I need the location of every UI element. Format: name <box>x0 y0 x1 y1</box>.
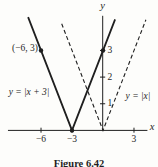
point-dot <box>70 128 74 132</box>
y-tick-label: 2 <box>108 72 113 83</box>
x-tick-label: 3 <box>124 134 144 145</box>
y-tick-label: 3 <box>108 45 113 56</box>
y-tick-label: 1 <box>108 98 113 109</box>
point-dot <box>39 48 43 52</box>
point-dot <box>101 48 105 52</box>
series-line-1 <box>62 20 146 131</box>
series-label-shifted-graph: y = |x + 3| <box>1 87 57 98</box>
series-line-0 <box>28 17 115 130</box>
figure-caption: Figure 6.42 <box>0 157 158 167</box>
figure-canvas: y x (−6, 3) y = |x + 3| y = |x| Figure 6… <box>0 0 158 167</box>
x-tick-label: −6 <box>31 134 51 145</box>
series-label-parent-graph: y = |x| <box>119 91 157 102</box>
y-axis-label: y <box>96 0 109 11</box>
x-axis-label: x <box>146 121 158 132</box>
x-tick-label: −3 <box>62 134 82 145</box>
marked-point-label: (−6, 3) <box>0 43 38 54</box>
